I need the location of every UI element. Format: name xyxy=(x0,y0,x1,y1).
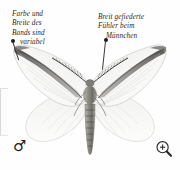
male-sex-symbol: ♂ xyxy=(13,139,26,154)
forewing-right xyxy=(94,45,166,106)
magnifier-plus-icon[interactable] xyxy=(154,139,174,159)
moth-illustration xyxy=(0,28,180,166)
callout-left-line-2: Breite des xyxy=(12,19,45,28)
callout-right-line-1: Breit gefiederte xyxy=(98,13,144,22)
callout-right-line-2: Fühler beim xyxy=(98,22,144,31)
forewing-left xyxy=(14,45,86,106)
illustration-plate: Farbe und Breite des Bands sind variabel… xyxy=(0,0,180,170)
callout-right: Breit gefiederte Fühler beim Männchen xyxy=(98,13,144,41)
callout-left-line-3: Bands sind xyxy=(12,29,45,38)
callout-left-line-4: variabel xyxy=(12,38,45,47)
callout-left: Farbe und Breite des Bands sind variabel xyxy=(12,10,45,48)
callout-left-line-1: Farbe und xyxy=(12,10,45,19)
